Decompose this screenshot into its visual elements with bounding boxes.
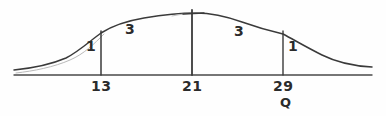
tick-label-29: 29 [273,79,293,93]
curve-drawing [0,0,386,116]
tick-label-21: 21 [182,79,202,93]
region-label-13-to-21: 3 [125,22,135,36]
region-label-left-tail: 1 [86,39,96,53]
region-label-right-tail: 1 [288,39,298,53]
vertical-marker-21-cap [183,13,204,14]
axis-name-label: Q [280,96,291,109]
region-label-21-to-29: 3 [234,24,244,38]
normal-distribution-sketch: 1 3 3 1 13 21 29 Q [0,0,386,116]
tick-label-13: 13 [91,79,111,93]
